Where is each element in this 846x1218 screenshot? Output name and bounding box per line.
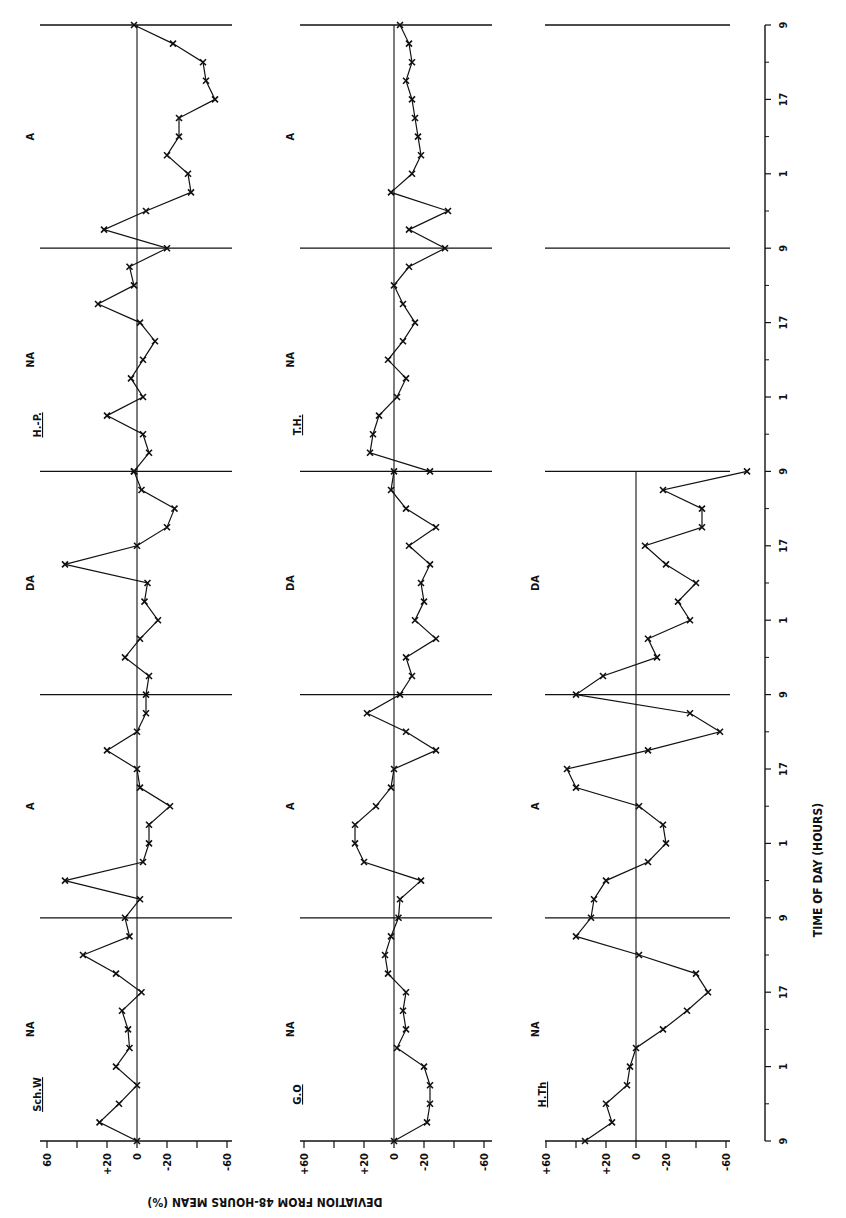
data-point-x-marker <box>705 989 711 995</box>
data-point-x-marker <box>400 301 406 307</box>
time-tick-label: 17 <box>777 316 790 330</box>
data-point-x-marker <box>146 450 152 456</box>
data-point-x-marker <box>212 96 218 102</box>
time-tick-label: 17 <box>777 985 790 999</box>
data-point-x-marker <box>645 859 651 865</box>
time-tick-label: 1 <box>777 1063 790 1070</box>
data-point-x-marker <box>418 878 424 884</box>
phase-label: A <box>284 802 297 810</box>
deviation-tick-label: -60 <box>221 1153 234 1171</box>
data-point-x-marker <box>603 1101 609 1107</box>
data-point-x-marker <box>140 357 146 363</box>
panel-2: +60+200-20-60NAADANAADA <box>284 0 492 1175</box>
phase-label: NA <box>284 351 297 367</box>
deviation-tick-label: +60 <box>540 1153 553 1175</box>
time-tick-label: 17 <box>777 762 790 776</box>
data-point-x-marker <box>140 431 146 437</box>
deviation-tick-label: -20 <box>418 1153 431 1171</box>
data-point-x-marker <box>427 561 433 567</box>
data-line <box>355 471 436 1141</box>
phase-label: NA <box>529 1021 542 1037</box>
data-point-x-marker <box>385 357 391 363</box>
data-point-x-marker <box>376 413 382 419</box>
data-point-x-marker <box>373 803 379 809</box>
data-point-x-marker <box>445 208 451 214</box>
phase-label: A <box>24 802 37 810</box>
data-point-x-marker <box>406 227 412 233</box>
data-point-x-marker <box>409 171 415 177</box>
data-point-x-marker <box>693 971 699 977</box>
data-point-x-marker <box>361 859 367 865</box>
data-point-x-marker <box>421 1064 427 1070</box>
data-point-x-marker <box>645 636 651 642</box>
time-axis: 911791179117911791179 <box>765 21 790 1144</box>
x-axis-title: TIME OF DAY (HOURS) <box>811 803 825 937</box>
data-point-x-marker <box>433 524 439 530</box>
data-point-x-marker <box>113 971 119 977</box>
data-point-x-marker <box>80 952 86 958</box>
data-point-x-marker <box>364 710 370 716</box>
data-point-x-marker <box>139 487 145 493</box>
phase-label: A <box>529 802 542 810</box>
panel-3: +60+200-20-60NAADA <box>529 25 733 1175</box>
data-point-x-marker <box>693 580 699 586</box>
data-point-x-marker <box>122 654 128 660</box>
data-point-x-marker <box>170 41 176 47</box>
subject-label: T.H. <box>291 414 304 435</box>
data-point-x-marker <box>104 747 110 753</box>
phase-label: NA <box>24 351 37 367</box>
data-point-x-marker <box>609 1119 615 1125</box>
phase-label: NA <box>24 1021 37 1037</box>
data-point-x-marker <box>675 599 681 605</box>
data-point-x-marker <box>406 264 412 270</box>
data-point-x-marker <box>140 394 146 400</box>
data-point-x-marker <box>654 654 660 660</box>
time-tick-label: 9 <box>777 691 790 698</box>
phase-label: DA <box>529 575 542 591</box>
data-point-x-marker <box>403 506 409 512</box>
deviation-tick-label: -60 <box>478 1153 491 1171</box>
data-point-x-marker <box>97 1119 103 1125</box>
data-point-x-marker <box>128 375 134 381</box>
deviation-tick-label: 0 <box>630 1153 643 1160</box>
data-point-x-marker <box>137 320 143 326</box>
data-point-x-marker <box>687 617 693 623</box>
data-point-x-marker <box>406 543 412 549</box>
data-point-x-marker <box>403 78 409 84</box>
time-tick-label: 1 <box>777 617 790 624</box>
data-point-x-marker <box>403 654 409 660</box>
phase-label: A <box>284 132 297 140</box>
deviation-tick-label: -60 <box>720 1153 733 1171</box>
deviation-tick-label: +20 <box>600 1153 613 1175</box>
data-point-x-marker <box>409 673 415 679</box>
data-point-x-marker <box>119 1008 125 1014</box>
deviation-tick-label: -20 <box>161 1153 174 1171</box>
data-point-x-marker <box>116 1101 122 1107</box>
data-point-x-marker <box>433 747 439 753</box>
data-line <box>567 471 747 1141</box>
data-point-x-marker <box>603 878 609 884</box>
data-point-x-marker <box>642 543 648 549</box>
subject-label: Sch.W <box>31 1077 44 1112</box>
time-tick-label: 9 <box>777 245 790 252</box>
data-point-x-marker <box>104 413 110 419</box>
y-axis-title: DEVIATION FROM 48-HOURS MEAN (%) <box>147 1195 382 1209</box>
time-tick-label: 17 <box>777 539 790 553</box>
time-tick-label: 17 <box>777 92 790 106</box>
data-point-x-marker <box>663 561 669 567</box>
deviation-tick-label: 0 <box>131 1153 144 1160</box>
time-tick-label: 9 <box>777 468 790 475</box>
data-point-x-marker <box>394 1045 400 1051</box>
deviation-tick-label: -20 <box>660 1153 673 1171</box>
phase-label: DA <box>284 575 297 591</box>
data-point-x-marker <box>137 636 143 642</box>
deviation-tick-label: +60 <box>298 1153 311 1175</box>
data-point-x-marker <box>403 729 409 735</box>
deviation-tick-label: +20 <box>358 1153 371 1175</box>
time-tick-label: 9 <box>777 21 790 28</box>
time-tick-label: 1 <box>777 393 790 400</box>
data-point-x-marker <box>388 933 394 939</box>
data-point-x-marker <box>412 617 418 623</box>
data-point-x-marker <box>172 506 178 512</box>
subject-label: H.-P. <box>31 412 44 437</box>
